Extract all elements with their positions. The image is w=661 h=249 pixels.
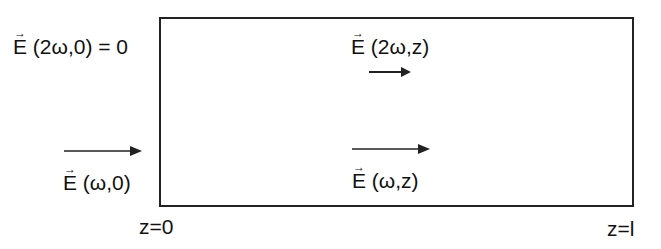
label-e-w-0: →E (ω,0) — [63, 172, 131, 193]
vector-arrow-icon: → — [64, 163, 76, 175]
vector-arrow-icon: → — [14, 27, 26, 39]
vector-e-symbol: →E — [63, 172, 77, 193]
field-args: (2ω,0) — [33, 35, 93, 58]
field-args: (2ω,z) — [371, 35, 429, 58]
boundary-label-zl: z=l — [607, 218, 634, 239]
vector-e-symbol: →E — [13, 36, 27, 57]
vector-e-symbol: →E — [351, 36, 365, 57]
arrow-right-icon — [369, 66, 411, 78]
vector-arrow-icon: → — [353, 161, 365, 173]
arrow-right-icon — [64, 145, 142, 157]
arrow-right-icon — [352, 143, 430, 155]
field-suffix: = 0 — [92, 35, 128, 58]
label-e-w-z: →E (ω,z) — [352, 170, 419, 191]
field-args: (ω,z) — [372, 169, 419, 192]
label-e-2w-0: →E (2ω,0) = 0 — [13, 36, 128, 57]
vector-arrow-icon: → — [352, 27, 364, 39]
vector-e-symbol: →E — [352, 170, 366, 191]
field-args: (ω,0) — [83, 171, 131, 194]
label-e-2w-z: →E (2ω,z) — [351, 36, 429, 57]
boundary-label-z0: z=0 — [139, 216, 173, 237]
